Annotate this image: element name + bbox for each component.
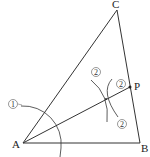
arc-step2-a bbox=[91, 80, 107, 122]
step2-marker-top: 2 bbox=[92, 68, 101, 78]
svg-text:1: 1 bbox=[11, 100, 15, 109]
side-ac bbox=[23, 10, 117, 143]
label-a: A bbox=[12, 138, 20, 150]
svg-text:2: 2 bbox=[120, 120, 124, 129]
label-p: P bbox=[134, 80, 140, 92]
bisector-ap bbox=[23, 87, 130, 143]
angle-bisector-diagram: 1 2 2 2 A B C P bbox=[0, 0, 150, 157]
step2-marker-near-p: 2 bbox=[117, 80, 126, 90]
svg-text:2: 2 bbox=[94, 68, 98, 77]
svg-text:2: 2 bbox=[119, 80, 123, 89]
step2-marker-bottom: 2 bbox=[118, 120, 127, 130]
step1-marker: 1 bbox=[9, 100, 18, 110]
point-p-dot bbox=[129, 86, 132, 89]
intersection-dot bbox=[105, 98, 107, 100]
step1-leader bbox=[18, 104, 22, 105]
label-b: B bbox=[141, 142, 148, 154]
label-c: C bbox=[112, 0, 119, 10]
arc-step1 bbox=[21, 106, 61, 157]
